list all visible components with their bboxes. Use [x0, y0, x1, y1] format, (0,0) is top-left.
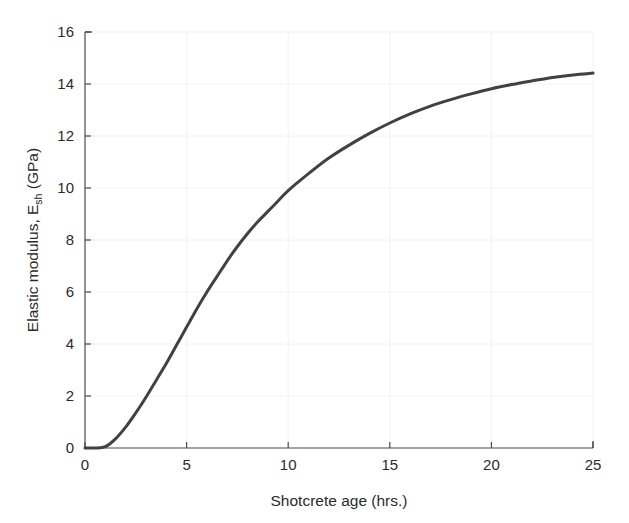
y-tick-label: 14 [57, 75, 74, 92]
y-axis-title-subscript: sh [32, 193, 44, 204]
y-tick-label: 6 [66, 283, 74, 300]
x-tick-label: 25 [585, 456, 602, 473]
x-tick-label: 5 [182, 456, 190, 473]
figure-container: 0510152025 0246810121416 Shotcrete age (… [0, 0, 629, 523]
chart-background [0, 0, 629, 523]
y-tick-label: 10 [57, 179, 74, 196]
x-tick-label: 15 [381, 456, 398, 473]
y-axis-title-unit: (GPa) [24, 148, 41, 194]
y-axis-title-main: Elastic modulus, E [24, 205, 41, 333]
x-axis-title: Shotcrete age (hrs.) [271, 492, 408, 509]
y-tick-label: 16 [57, 23, 74, 40]
x-tick-label: 20 [483, 456, 500, 473]
elastic-modulus-chart: 0510152025 0246810121416 Shotcrete age (… [0, 0, 629, 523]
y-tick-label: 0 [66, 439, 74, 456]
x-tick-label: 0 [81, 456, 89, 473]
y-tick-label: 2 [66, 387, 74, 404]
y-tick-label: 4 [66, 335, 74, 352]
y-tick-label: 12 [57, 127, 74, 144]
y-tick-label: 8 [66, 231, 74, 248]
x-tick-label: 10 [280, 456, 297, 473]
